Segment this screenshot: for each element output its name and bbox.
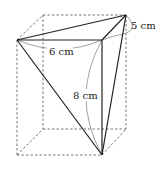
cuboid-pyramid-diagram: 6 cm 8 cm 5 cm xyxy=(0,0,162,169)
label-8cm: 8 cm xyxy=(73,90,98,101)
pyramid-edges xyxy=(17,15,126,155)
edge-left-apex xyxy=(17,15,126,40)
arc-5cm xyxy=(102,15,132,40)
label-6cm: 6 cm xyxy=(49,46,74,57)
edge-left-top xyxy=(17,15,43,40)
label-5cm: 5 cm xyxy=(131,20,156,31)
edge-left-bottom xyxy=(17,129,43,155)
